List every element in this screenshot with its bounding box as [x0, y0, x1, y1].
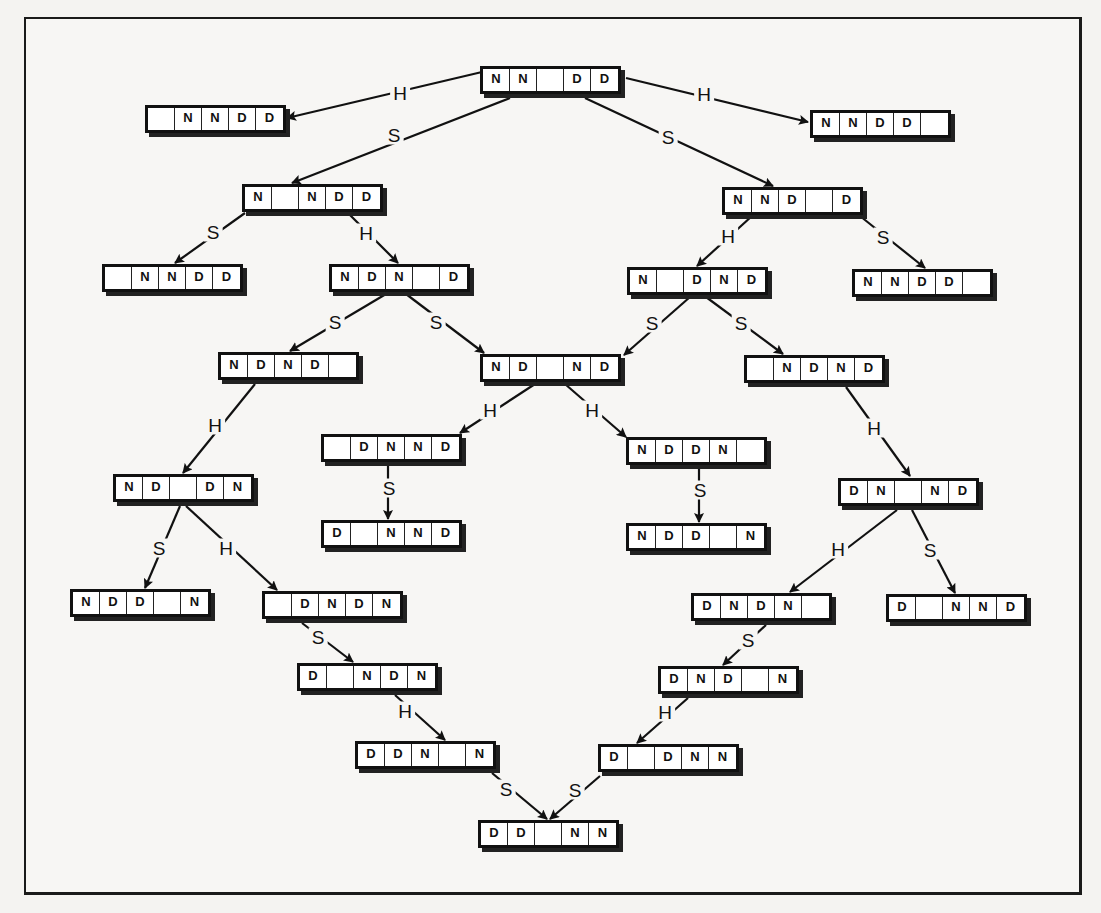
state-cell: N: [408, 666, 435, 688]
state-cell: [272, 187, 299, 209]
state-cell: N: [725, 190, 752, 212]
state-cell: [537, 357, 564, 379]
state-cell: D: [229, 108, 256, 130]
state-cell: [351, 523, 378, 545]
state-cell: D: [801, 358, 828, 380]
edge-arrow-n0-n2: [626, 78, 808, 122]
state-cell: N: [630, 270, 657, 292]
edge-label: H: [205, 416, 225, 435]
state-cell: N: [855, 272, 882, 294]
state-node-n6: NDND: [329, 264, 470, 292]
state-cell: N: [224, 477, 251, 499]
state-cell: [329, 355, 356, 377]
state-node-n15: DNND: [321, 520, 462, 548]
state-cell: D: [481, 823, 508, 845]
edge-label: H: [828, 540, 848, 559]
state-cell: D: [358, 744, 385, 766]
state-cell: D: [326, 187, 353, 209]
state-cell: D: [385, 744, 412, 766]
state-cell: D: [432, 523, 459, 545]
state-cell: N: [688, 669, 715, 691]
state-node-n19: DNDN: [262, 591, 403, 619]
state-cell: D: [292, 594, 319, 616]
state-node-n7: NDND: [627, 267, 768, 295]
state-cell: N: [132, 267, 159, 289]
state-cell: N: [775, 596, 802, 618]
state-cell: D: [510, 357, 537, 379]
state-cell: D: [661, 669, 688, 691]
state-node-n20: DNDN: [691, 593, 832, 621]
state-cell: N: [466, 744, 493, 766]
state-cell: [327, 666, 354, 688]
state-cell: N: [813, 113, 840, 135]
state-cell: N: [882, 272, 909, 294]
state-cell: D: [508, 823, 535, 845]
state-node-n17: DNND: [838, 478, 979, 506]
state-node-n4: NNDD: [722, 187, 863, 215]
state-cell: N: [828, 358, 855, 380]
state-node-n22: DNDN: [297, 663, 438, 691]
state-cell: [535, 823, 562, 845]
edge-arrow-n4-n8: [860, 216, 925, 268]
state-cell: D: [324, 523, 351, 545]
state-cell: N: [221, 355, 248, 377]
state-cell: N: [868, 481, 895, 503]
state-cell: D: [833, 190, 860, 212]
state-node-n2: NNDD: [810, 110, 951, 138]
state-cell: D: [656, 526, 683, 548]
state-cell: [105, 267, 132, 289]
state-cell: [628, 747, 655, 769]
state-cell: [802, 596, 829, 618]
edge-label: S: [739, 631, 758, 650]
state-cell: N: [405, 437, 432, 459]
state-cell: [916, 597, 943, 619]
state-node-n8: NNDD: [852, 269, 993, 297]
state-cell: D: [256, 108, 283, 130]
state-cell: N: [682, 747, 709, 769]
edge-label: S: [326, 313, 345, 332]
edge-label: H: [480, 401, 500, 420]
state-cell: N: [922, 481, 949, 503]
state-cell: D: [949, 481, 976, 503]
state-cell: [742, 669, 769, 691]
state-cell: D: [841, 481, 868, 503]
edge-label: H: [216, 539, 236, 558]
edge-label: S: [380, 479, 399, 498]
state-node-n23: DNDN: [658, 666, 799, 694]
state-cell: N: [73, 592, 100, 614]
edge-label: S: [732, 314, 751, 333]
state-cell: N: [159, 267, 186, 289]
state-cell: D: [351, 437, 378, 459]
state-cell: N: [245, 187, 272, 209]
state-cell: N: [405, 523, 432, 545]
state-cell: D: [300, 666, 327, 688]
state-cell: N: [752, 190, 779, 212]
edge-arrow-n0-n1: [287, 72, 482, 118]
state-cell: N: [202, 108, 229, 130]
state-cell: [170, 477, 197, 499]
state-cell: [963, 272, 990, 294]
state-cell: [921, 113, 948, 135]
state-cell: D: [683, 526, 710, 548]
edge-label: S: [497, 780, 516, 799]
edge-label: S: [309, 628, 328, 647]
state-node-n13: NDDN: [626, 437, 767, 465]
state-cell: D: [213, 267, 240, 289]
state-cell: [737, 440, 764, 462]
state-cell: D: [100, 592, 127, 614]
state-node-n0: NNDD: [480, 66, 621, 94]
edge-arrow-n0-n4: [585, 98, 773, 186]
state-cell: N: [721, 596, 748, 618]
state-cell: N: [510, 69, 537, 91]
state-cell: D: [346, 594, 373, 616]
state-cell: D: [779, 190, 806, 212]
edge-label: H: [390, 84, 410, 103]
state-cell: [657, 270, 684, 292]
state-cell: D: [889, 597, 916, 619]
state-cell: [413, 267, 440, 289]
state-cell: [439, 744, 466, 766]
state-cell: N: [711, 270, 738, 292]
state-cell: [747, 358, 774, 380]
state-node-n18: NDDN: [70, 589, 211, 617]
state-cell: D: [684, 270, 711, 292]
